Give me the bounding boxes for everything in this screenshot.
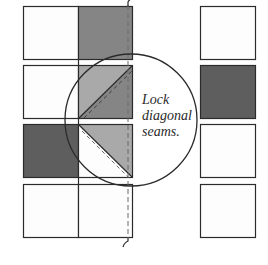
thread-end-top [128, 0, 131, 6]
square-r1-right [79, 7, 133, 60]
square-r1-left [24, 7, 79, 60]
quilt-diagram: Lock diagonal seams. [0, 0, 268, 265]
callout-line-2: diagonal [142, 108, 192, 123]
square-r3-left [24, 125, 79, 178]
callout-line-3: seams. [142, 124, 180, 139]
callout-line-1: Lock [141, 92, 170, 107]
thread-end-bottom [123, 238, 128, 247]
half-square-triangle-r2 [79, 66, 133, 119]
square-r4-right [79, 185, 133, 238]
right-square-3 [201, 125, 256, 178]
square-r2-left [24, 66, 79, 119]
right-square-2 [201, 66, 256, 119]
square-r4-left [24, 185, 79, 238]
right-square-1 [201, 7, 256, 60]
right-square-4 [201, 185, 256, 238]
